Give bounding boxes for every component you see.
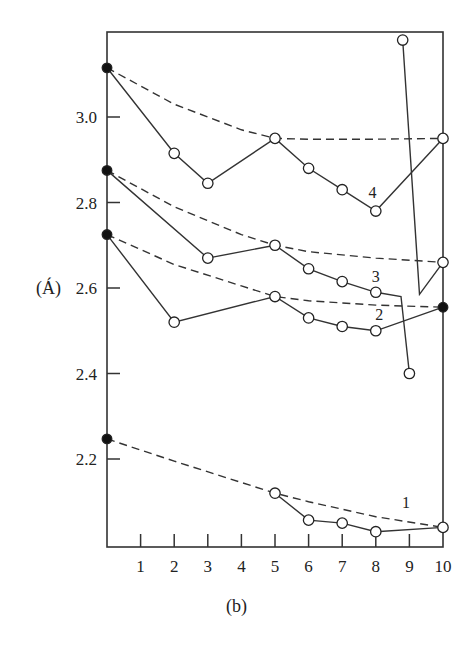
open-point: [438, 133, 448, 143]
open-point: [337, 184, 347, 194]
open-point: [371, 526, 381, 536]
series-label-4: 4: [368, 184, 376, 201]
figure-caption: (b): [226, 596, 247, 617]
open-point: [270, 291, 280, 301]
filled-point: [102, 434, 112, 444]
open-point: [169, 148, 179, 158]
series-line-4-branch: [403, 40, 443, 294]
y-tick-label: 2.8: [76, 194, 97, 213]
y-tick-label: 2.4: [76, 365, 98, 384]
series-label-3: 3: [372, 268, 380, 285]
open-point: [203, 253, 213, 263]
series-labels: 1234: [368, 184, 410, 511]
data-point-markers: [102, 35, 448, 537]
y-tick-label: 2.6: [76, 279, 97, 298]
open-point: [371, 326, 381, 336]
open-point: [270, 240, 280, 250]
fit-curve-4: [107, 68, 443, 139]
fit-curve-1: [107, 439, 443, 528]
filled-point: [102, 166, 112, 176]
series-label-2: 2: [375, 306, 383, 323]
open-point: [270, 133, 280, 143]
filled-point: [438, 302, 448, 312]
x-tick-label: 3: [204, 557, 213, 576]
open-point: [337, 518, 347, 528]
open-point: [203, 178, 213, 188]
open-point: [303, 515, 313, 525]
y-axis-label: (Á): [36, 277, 61, 299]
open-point: [438, 257, 448, 267]
y-tick-label: 3.0: [76, 108, 97, 127]
open-point: [169, 317, 179, 327]
x-tick-label: 10: [435, 557, 452, 576]
line-chart: 2.22.42.62.83.0 12345678910 1234 (Á) (b): [0, 0, 474, 645]
filled-point: [102, 230, 112, 240]
data-series-lines: [107, 40, 443, 532]
y-tick-label: 2.2: [76, 450, 97, 469]
plot-frame: [107, 32, 443, 547]
open-point: [303, 313, 313, 323]
plot-border: [107, 32, 443, 547]
x-tick-label: 2: [170, 557, 179, 576]
open-point: [270, 488, 280, 498]
x-tick-label: 6: [304, 557, 313, 576]
x-tick-label: 1: [136, 557, 145, 576]
series-line-3: [107, 170, 409, 373]
x-tick-label: 7: [338, 557, 347, 576]
x-tick-label: 9: [405, 557, 414, 576]
open-point: [438, 522, 448, 532]
x-axis-ticks: 12345678910: [136, 534, 451, 576]
open-point: [371, 287, 381, 297]
x-tick-label: 8: [372, 557, 381, 576]
y-axis-ticks: 2.22.42.62.83.0: [76, 108, 120, 469]
open-point: [303, 163, 313, 173]
open-point: [303, 264, 313, 274]
open-point: [337, 276, 347, 286]
x-tick-label: 5: [271, 557, 280, 576]
open-point: [397, 35, 407, 45]
x-tick-label: 4: [237, 557, 246, 576]
open-point: [337, 321, 347, 331]
open-point: [371, 206, 381, 216]
open-point: [404, 368, 414, 378]
filled-point: [102, 63, 112, 73]
series-label-1: 1: [402, 494, 410, 511]
